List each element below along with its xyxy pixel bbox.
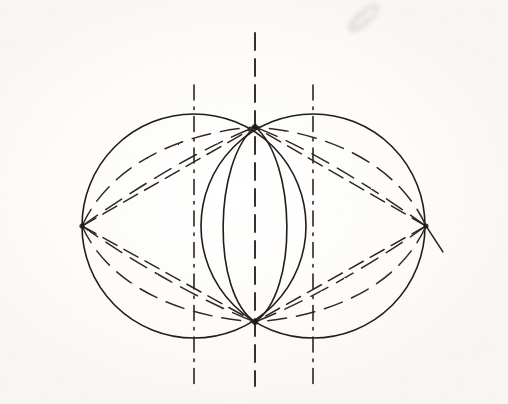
vertex-node-top	[252, 124, 258, 130]
vertex-node-right	[423, 223, 428, 228]
chord-left-bottom	[82, 226, 255, 322]
diagram-canvas	[0, 0, 508, 404]
geometric-figure	[0, 0, 508, 404]
vertex-nodes	[79, 124, 428, 325]
vertex-node-left	[79, 223, 84, 228]
vertex-node-bottom	[252, 319, 258, 325]
chord-right-bottom	[255, 226, 426, 322]
vertical-construction-lines	[194, 33, 313, 386]
vesica-left-arc	[223, 127, 255, 322]
chords-group	[82, 127, 426, 322]
right-vertex-tick	[426, 226, 443, 252]
pencil-smudge	[348, 3, 381, 34]
